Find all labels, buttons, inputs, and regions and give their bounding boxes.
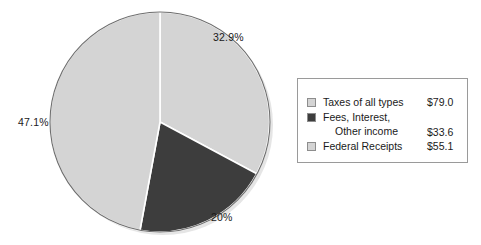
legend-label-federal-receipts: Federal Receipts — [323, 140, 427, 154]
legend-swatch-icon-taxes-of-all-types — [307, 98, 316, 107]
legend-value-fees-interest-other-income: $33.6 — [427, 126, 463, 140]
legend-value-taxes-of-all-types: $79.0 — [427, 96, 463, 110]
legend-label-fees-interest-other-income: Fees, Interest,Other income — [323, 111, 427, 138]
legend-label-line2-other-income: Other income — [323, 125, 427, 139]
legend-label-line1-fees-interest: Fees, Interest, — [323, 111, 390, 123]
pie-percent-label-federal-receipts: 47.1% — [18, 116, 49, 128]
pie-percent-label-taxes-of-all-types: 32.9% — [213, 31, 244, 43]
legend-swatch-icon-federal-receipts — [307, 142, 316, 151]
pie-slice-federal-receipts[interactable] — [50, 12, 160, 230]
legend-label-taxes-of-all-types: Taxes of all types — [323, 96, 427, 110]
legend-item-federal-receipts[interactable]: Federal Receipts $55.1 — [307, 140, 463, 154]
legend-item-taxes-of-all-types[interactable]: Taxes of all types $79.0 — [307, 96, 463, 110]
legend-item-fees-interest-other-income[interactable]: Fees, Interest,Other income $33.6 — [307, 111, 463, 139]
chart-legend: Taxes of all types $79.0 Fees, Interest,… — [297, 78, 468, 163]
pie-plot-area: 32.9% 47.1% 20% — [0, 0, 290, 245]
legend-value-federal-receipts: $55.1 — [427, 140, 463, 154]
legend-rows: Taxes of all types $79.0 Fees, Interest,… — [307, 96, 463, 155]
pie-percent-label-fees-interest-other-income: 20% — [211, 211, 233, 223]
pie-chart-figure: 32.9% 47.1% 20% Taxes of all types $79.0… — [0, 0, 481, 245]
legend-swatch-icon-fees-interest-other-income — [307, 113, 316, 122]
